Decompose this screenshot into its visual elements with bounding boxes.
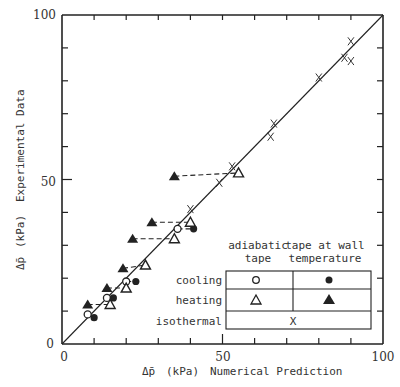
legend-header-adiabatic-2: tape [245, 252, 272, 265]
legend-row-cooling: cooling [176, 274, 222, 287]
scatter-chart: 100 50 0 0 50 100 Δp̄ (kPa) Numerical Pr… [0, 0, 400, 387]
x-point [216, 179, 222, 187]
open-triangle-point [234, 168, 244, 177]
legend-row-heating: heating [176, 294, 222, 307]
legend-header-wall-2: temperature [289, 252, 362, 265]
x-tick-100: 100 [372, 350, 395, 364]
x-point [348, 37, 354, 45]
y-tick-100: 100 [33, 8, 56, 22]
open-triangle-point [169, 234, 179, 243]
y-tick-50: 50 [41, 175, 56, 189]
open-circle-point [174, 225, 181, 232]
y-tick-0: 0 [46, 337, 54, 351]
legend-header-wall-1: tape at wall [285, 239, 364, 252]
legend-row-isothermal: isothermal [156, 315, 222, 328]
filled-circle-point [132, 278, 139, 285]
x-marker-icon: X [290, 315, 297, 328]
y-axis-title: Δp̄ (kPa) Experimental Data [14, 89, 27, 270]
x-axis-text: Numerical Prediction [210, 365, 342, 378]
open-circle-point [84, 311, 91, 318]
x-point [268, 133, 274, 141]
open-triangle-icon [251, 295, 261, 304]
x-point [348, 57, 354, 65]
x-axis-symbol: Δp̄ [142, 365, 155, 378]
y-axis-symbol: Δp̄ [14, 257, 27, 270]
y-axis-text: Experimental Data [14, 89, 27, 202]
x-axis-title: Δp̄ (kPa) Numerical Prediction [142, 365, 342, 378]
open-circle-icon [253, 277, 260, 284]
filled-triangle-icon [323, 294, 335, 304]
x-tick-0: 0 [60, 350, 68, 364]
legend: adiabatic tape tape at wall temperature … [156, 239, 371, 329]
reference-line [62, 15, 383, 344]
x-axis-unit: (kPa) [166, 365, 199, 378]
filled-circle-icon [326, 277, 333, 284]
x-tick-50: 50 [215, 350, 230, 364]
legend-header-adiabatic-1: adiabatic [228, 239, 288, 252]
open-triangle-point [121, 283, 131, 292]
y-axis-unit: (kPa) [14, 215, 27, 248]
filled-circle-point [91, 314, 98, 321]
